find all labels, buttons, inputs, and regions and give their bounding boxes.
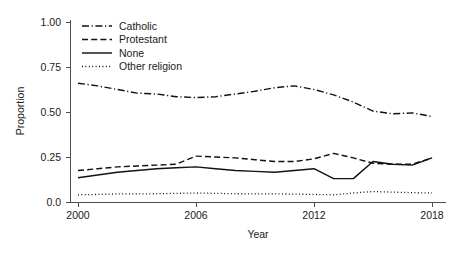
line-chart: 0.00.250.500.751.00 2000200620122018 Cat… [0,0,460,255]
legend-label-catholic: Catholic [119,20,157,32]
x-axis-ticks: 2000200620122018 [66,203,444,222]
x-axis-title: Year [247,228,269,240]
y-tick-label: 0.0 [46,196,61,208]
series-line-none [78,158,432,179]
y-tick-label: 0.75 [41,61,62,73]
legend-label-other-religion: Other religion [119,60,182,72]
series-line-other-religion [78,192,432,195]
y-axis-ticks: 0.00.250.500.751.00 [41,16,71,208]
y-axis-title: Proportion [14,87,26,136]
chart-legend: CatholicProtestantNoneOther religion [82,20,182,73]
x-tick-label: 2018 [420,209,444,221]
x-tick-label: 2006 [184,209,208,221]
data-series-group [78,83,432,195]
y-tick-label: 1.00 [41,16,62,28]
series-line-catholic [78,83,432,116]
y-tick-label: 0.25 [41,151,62,163]
x-tick-label: 2012 [302,209,326,221]
x-tick-label: 2000 [66,209,90,221]
legend-label-protestant: Protestant [119,33,167,45]
chart-container: 0.00.250.500.751.00 2000200620122018 Cat… [0,0,460,255]
legend-label-none: None [119,47,144,59]
y-tick-label: 0.50 [41,106,62,118]
